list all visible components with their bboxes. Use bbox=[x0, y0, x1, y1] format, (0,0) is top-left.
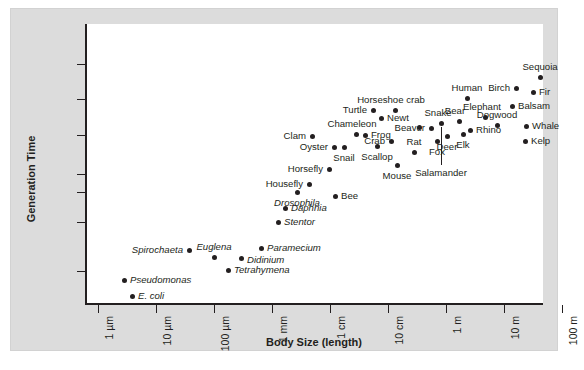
data-point[interactable] bbox=[354, 132, 359, 137]
data-point[interactable] bbox=[187, 248, 192, 253]
y-axis-line bbox=[85, 24, 87, 305]
point-label: Drosophila bbox=[274, 198, 320, 208]
data-point[interactable] bbox=[389, 139, 394, 144]
data-point[interactable] bbox=[531, 90, 536, 95]
data-point[interactable] bbox=[393, 108, 398, 113]
data-point[interactable] bbox=[510, 104, 515, 109]
point-label: Turtle bbox=[343, 105, 367, 115]
x-tick-label: 100 µm bbox=[219, 316, 231, 351]
point-label: Didinium bbox=[247, 255, 284, 265]
x-tick-label: 10 µm bbox=[161, 316, 173, 345]
x-tick-mark bbox=[562, 305, 563, 313]
point-label: Oyster bbox=[300, 142, 328, 152]
x-tick-label: 1 mm bbox=[277, 316, 289, 342]
data-point[interactable] bbox=[295, 190, 300, 195]
y-tick-mark bbox=[77, 271, 85, 272]
point-label: Crab bbox=[364, 136, 385, 146]
point-label: Scallop bbox=[361, 152, 392, 162]
x-tick-label: 1 cm bbox=[335, 316, 347, 339]
y-tick-mark bbox=[77, 192, 85, 193]
data-point[interactable] bbox=[395, 163, 400, 168]
point-label: Kelp bbox=[531, 136, 550, 146]
point-label: Balsam bbox=[518, 101, 550, 111]
plot-area: 100 years10 years1 year1 month1 week1 da… bbox=[85, 24, 543, 305]
x-tick-mark bbox=[388, 305, 389, 313]
data-point[interactable] bbox=[371, 108, 376, 113]
data-point[interactable] bbox=[465, 96, 470, 101]
point-label: Tetrahymena bbox=[234, 265, 290, 275]
point-label: Human bbox=[452, 83, 483, 93]
point-label: Birch bbox=[488, 83, 510, 93]
x-tick-label: 10 cm bbox=[393, 316, 405, 345]
data-point[interactable] bbox=[333, 194, 338, 199]
point-label: Elk bbox=[456, 140, 469, 150]
x-tick-mark bbox=[272, 305, 273, 313]
point-label: Spirochaeta bbox=[132, 245, 183, 255]
y-axis-title: Generation Time bbox=[25, 136, 37, 223]
data-point[interactable] bbox=[524, 124, 529, 129]
point-label: Horseshoe crab bbox=[357, 95, 425, 105]
point-label: E. coli bbox=[138, 291, 164, 301]
point-label: Fir bbox=[539, 87, 550, 97]
point-label: Euglena bbox=[196, 242, 231, 252]
point-label: Chameleon bbox=[327, 119, 376, 129]
data-point[interactable] bbox=[130, 294, 135, 299]
data-point[interactable] bbox=[310, 134, 315, 139]
data-point[interactable] bbox=[276, 220, 281, 225]
data-point[interactable] bbox=[457, 119, 462, 124]
x-tick-mark bbox=[446, 305, 447, 313]
data-point[interactable] bbox=[342, 145, 347, 150]
x-tick-mark bbox=[330, 305, 331, 313]
x-tick-label: 10 m bbox=[509, 316, 521, 339]
point-label: Sequoia bbox=[522, 62, 557, 72]
point-label: Housefly bbox=[266, 179, 303, 189]
x-tick-mark bbox=[214, 305, 215, 313]
data-point[interactable] bbox=[332, 145, 337, 150]
x-tick-mark bbox=[98, 305, 99, 313]
point-label: Mouse bbox=[383, 171, 412, 181]
data-point[interactable] bbox=[212, 255, 217, 260]
y-tick-mark bbox=[77, 99, 85, 100]
data-point[interactable] bbox=[412, 150, 417, 155]
x-tick-label: 100 m bbox=[567, 316, 579, 345]
data-point[interactable] bbox=[495, 123, 500, 128]
data-point[interactable] bbox=[417, 125, 422, 130]
point-label: Deer bbox=[437, 142, 458, 152]
y-tick-mark bbox=[77, 64, 85, 65]
point-label: Dogwood bbox=[477, 110, 518, 120]
x-axis-line bbox=[85, 303, 543, 305]
y-tick-mark bbox=[77, 174, 85, 175]
y-tick-mark bbox=[77, 135, 85, 136]
figure-panel: Generation Time Body Size (length) 100 y… bbox=[11, 9, 557, 350]
point-label: Pseudomonas bbox=[130, 275, 191, 285]
data-point[interactable] bbox=[239, 256, 244, 261]
point-label: Paramecium bbox=[267, 243, 321, 253]
y-tick-mark bbox=[77, 222, 85, 223]
point-label: Stentor bbox=[284, 217, 315, 227]
data-point[interactable] bbox=[461, 132, 466, 137]
data-point[interactable] bbox=[523, 139, 528, 144]
data-point[interactable] bbox=[468, 128, 473, 133]
data-point[interactable] bbox=[379, 116, 384, 121]
point-label: Horsefly bbox=[288, 164, 323, 174]
point-label: Snail bbox=[333, 153, 354, 163]
x-tick-label: 1 µm bbox=[103, 316, 115, 340]
x-tick-label: 1 m bbox=[451, 316, 463, 334]
data-point[interactable] bbox=[538, 75, 543, 80]
data-point[interactable] bbox=[327, 167, 332, 172]
data-point[interactable] bbox=[514, 86, 519, 91]
x-tick-mark bbox=[504, 305, 505, 313]
point-label: Clam bbox=[284, 131, 306, 141]
point-label: Whale bbox=[532, 121, 559, 131]
point-label: Rat bbox=[407, 137, 422, 147]
data-point[interactable] bbox=[439, 121, 444, 126]
x-tick-mark bbox=[156, 305, 157, 313]
data-point[interactable] bbox=[122, 278, 127, 283]
data-point[interactable] bbox=[226, 268, 231, 273]
data-point[interactable] bbox=[259, 246, 264, 251]
point-label: Salamander bbox=[415, 168, 467, 178]
data-point[interactable] bbox=[429, 126, 434, 131]
point-label: Bee bbox=[341, 191, 358, 201]
data-point[interactable] bbox=[445, 134, 450, 139]
data-point[interactable] bbox=[307, 182, 312, 187]
